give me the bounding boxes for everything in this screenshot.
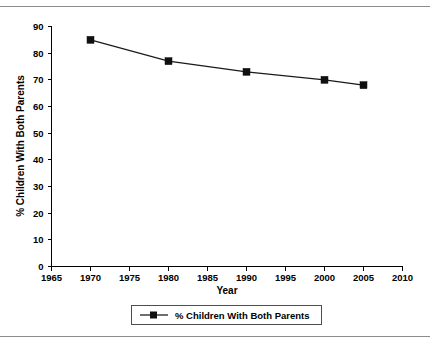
x-tick-label: 2005 bbox=[353, 272, 375, 283]
y-tick-label: 90 bbox=[33, 21, 44, 32]
data-point-marker[interactable] bbox=[360, 82, 367, 89]
y-tick-label: 30 bbox=[33, 181, 44, 192]
legend-label-0: % Children With Both Parents bbox=[175, 310, 310, 321]
x-tick-label: 1995 bbox=[275, 272, 297, 283]
line-chart: 0102030405060708090 19651970197519801985… bbox=[0, 0, 430, 348]
series-markers bbox=[87, 36, 367, 88]
x-tick-label: 1990 bbox=[236, 272, 257, 283]
y-axis-ticks bbox=[48, 27, 52, 267]
y-tick-label: 70 bbox=[33, 74, 44, 85]
x-tick-label: 1980 bbox=[158, 272, 179, 283]
y-tick-label: 50 bbox=[33, 128, 44, 139]
y-tick-label: 10 bbox=[33, 234, 44, 245]
x-tick-label: 1965 bbox=[41, 272, 63, 283]
x-tick-label: 2000 bbox=[314, 272, 335, 283]
y-axis-tick-labels: 0102030405060708090 bbox=[33, 21, 44, 272]
data-point-marker[interactable] bbox=[243, 68, 250, 75]
y-tick-label: 80 bbox=[33, 48, 44, 59]
chart-svg: 0102030405060708090 19651970197519801985… bbox=[0, 0, 430, 348]
data-point-marker[interactable] bbox=[321, 76, 328, 83]
y-tick-label: 0 bbox=[38, 261, 43, 272]
y-tick-label: 20 bbox=[33, 208, 44, 219]
x-tick-label: 1985 bbox=[197, 272, 219, 283]
data-point-marker[interactable] bbox=[87, 36, 94, 43]
x-tick-label: 1975 bbox=[119, 272, 141, 283]
x-tick-label: 2010 bbox=[392, 272, 413, 283]
y-tick-label: 60 bbox=[33, 101, 44, 112]
legend-marker-square bbox=[150, 312, 157, 319]
chart-legend[interactable]: % Children With Both Parents bbox=[132, 306, 322, 325]
x-axis-ticks bbox=[52, 267, 403, 271]
y-axis-title: % Children With Both Parents bbox=[15, 75, 26, 217]
x-axis-title: Year bbox=[216, 285, 237, 296]
y-tick-label: 40 bbox=[33, 154, 44, 165]
figure-page: 0102030405060708090 19651970197519801985… bbox=[0, 0, 430, 348]
data-point-marker[interactable] bbox=[165, 58, 172, 65]
x-axis-tick-labels: 1965197019751980198519901995200020052010 bbox=[41, 272, 413, 283]
x-tick-label: 1970 bbox=[80, 272, 101, 283]
